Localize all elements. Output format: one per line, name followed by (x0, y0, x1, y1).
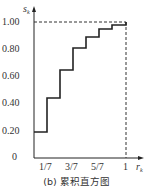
y-tick-label: 0.40 (2, 97, 20, 108)
y-tick-label: 0.20 (2, 125, 20, 136)
y-tick-label: 0.80 (2, 43, 20, 54)
x-axis-arrow-icon (138, 156, 144, 160)
x-axis-label: rk (136, 161, 143, 173)
x-tick-label: 1 (123, 161, 128, 172)
y-tick-label: 1.00 (2, 16, 20, 27)
x-tick-label: 5/7 (91, 161, 104, 172)
cumulative-step-line (34, 22, 126, 132)
chart-caption: (b) 累积直方图 (0, 174, 153, 188)
y-tick-label: 0.60 (2, 70, 20, 81)
x-tick-label: 3/7 (65, 161, 78, 172)
y-axis-arrow-icon (32, 6, 36, 12)
cumulative-histogram-chart: 1.00 0.80 0.60 0.40 0.20 0 1/7 3/7 5/7 1… (0, 0, 153, 194)
y-tick-label: 0 (12, 151, 17, 162)
x-tick-label: 1/7 (39, 161, 52, 172)
y-axis-label: sk (23, 3, 30, 15)
